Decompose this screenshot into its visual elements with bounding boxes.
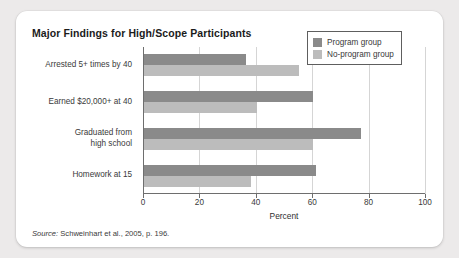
bar-group [144, 165, 425, 187]
legend-label: Program group [327, 38, 382, 47]
category-label: Graduated from high school [75, 128, 132, 149]
bar-groups [143, 47, 425, 194]
category-label: Homework at 15 [72, 170, 132, 181]
bar [144, 54, 246, 65]
bar [144, 128, 361, 139]
legend-swatch [313, 50, 322, 59]
source-note: Source: Schweinhart et al., 2005, p. 196… [32, 229, 169, 238]
figure-card: Major Findings for High/Scope Participan… [16, 11, 443, 247]
legend-swatch [313, 38, 322, 47]
bar [144, 102, 257, 113]
bar-group [144, 91, 425, 113]
x-axis-tick-label: 100 [418, 198, 432, 207]
category-axis-labels: Arrested 5+ times by 40Earned $20,000+ a… [16, 47, 138, 194]
x-axis-tick-label: 80 [364, 198, 373, 207]
bar [144, 65, 299, 76]
legend-item: Program group [313, 36, 394, 48]
y-axis-line [143, 47, 144, 194]
x-axis-title: Percent [143, 211, 425, 221]
x-axis-tick-label: 0 [141, 198, 146, 207]
legend-label: No-program group [327, 50, 394, 59]
x-axis-tick-label: 40 [251, 198, 260, 207]
gridline [425, 47, 426, 194]
x-axis-line [143, 193, 425, 194]
legend-item: No-program group [313, 48, 394, 60]
page-title: Major Findings for High/Scope Participan… [32, 27, 251, 39]
x-axis-tick-label: 20 [195, 198, 204, 207]
bar [144, 165, 316, 176]
bar [144, 139, 313, 150]
category-label: Earned $20,000+ at 40 [48, 97, 132, 108]
category-label: Arrested 5+ times by 40 [45, 60, 132, 71]
source-label: Source: [32, 229, 58, 238]
x-axis-tick-labels: 020406080100 [143, 198, 425, 210]
source-citation-text: Schweinhart et al., 2005, p. 196. [60, 229, 169, 238]
bar-group [144, 128, 425, 150]
bar [144, 176, 251, 187]
chart-legend: Program groupNo-program group [307, 31, 402, 65]
bar [144, 91, 313, 102]
plot-area [143, 47, 425, 194]
x-axis-tick-label: 60 [308, 198, 317, 207]
